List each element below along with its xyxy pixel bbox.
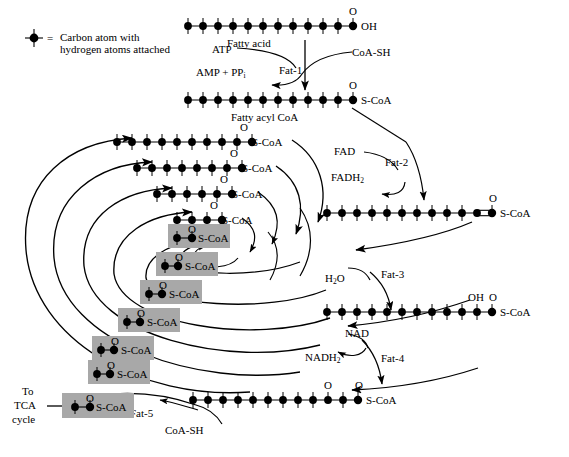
cofactor-fad: FAD — [334, 145, 355, 157]
hydroxyacyl-coa-terminal-scoa: S-CoA — [500, 306, 531, 318]
acetyl-coa-4-scoa: S-CoA — [147, 316, 178, 328]
fatty-acid-terminal-oh: OH — [361, 20, 377, 32]
cofactor-atp: ATP — [212, 43, 232, 55]
acetyl-coa-5-scoa: S-CoA — [121, 344, 152, 356]
enzyme-fat-4: Fat-4 — [381, 352, 404, 364]
water-o: O — [337, 272, 345, 284]
acetyl-coa-3-scoa: S-CoA — [169, 288, 200, 300]
acetyl-coa-6-o: O — [107, 359, 115, 371]
water-h: H — [325, 272, 333, 284]
acetyl-coa-5-o: O — [111, 335, 119, 347]
acetyl-coa-2-o: O — [175, 251, 183, 263]
tca-output-line-1: To — [22, 385, 33, 397]
fatty-acyl-coa-terminal-scoa: S-CoA — [361, 94, 392, 106]
hydroxyacyl-coa-carbonyl-o: O — [489, 291, 497, 303]
amp-ppi-subscript: i — [243, 71, 245, 80]
nadh2-text: NADH — [305, 351, 337, 363]
acetyl-coa-3-o: O — [159, 279, 167, 291]
molecule-fatty-acid — [183, 14, 363, 38]
enzyme-fat-1: Fat-1 — [279, 64, 302, 76]
cofactor-nad: NAD — [345, 327, 369, 339]
legend-line-1: Carbon atom with — [60, 31, 139, 43]
outer-sweep-1 — [356, 222, 472, 250]
molecule-ketoacyl-coa — [188, 388, 378, 412]
hydroxyacyl-coa-hydroxyl: OH — [468, 291, 484, 303]
enoyl-coa-terminal-scoa: S-CoA — [500, 207, 531, 219]
enoyl-coa-carbonyl-o: O — [489, 192, 497, 204]
acetyl-coa-2-scoa: S-CoA — [185, 260, 216, 272]
acyl-coa-4c-carbonyl-o: O — [210, 199, 218, 211]
fat4-arrows — [338, 334, 382, 384]
cofactor-coash-bottom: CoA-SH — [165, 424, 204, 436]
nadh2-subscript: 2 — [337, 356, 341, 365]
fatty-acid-carbonyl-o: O — [349, 5, 357, 17]
molecule-enoyl-coa — [322, 201, 512, 225]
cofactor-amp-ppi: AMP + PPi — [196, 66, 245, 82]
molecule-hydroxyacyl-coa — [322, 300, 512, 324]
acetyl-coa-6-scoa: S-CoA — [117, 368, 148, 380]
spiral-arc-right-1 — [292, 140, 323, 222]
tca-output-line-2: TCA — [14, 399, 36, 411]
cofactor-fadh2: FADH2 — [331, 171, 364, 187]
acetyl-coa-4-o: O — [137, 307, 145, 319]
fadh2-text: FADH — [331, 171, 360, 183]
enzyme-fat-2: Fat-2 — [385, 156, 408, 168]
acetyl-coa-1-scoa: S-CoA — [198, 232, 229, 244]
legend-carbon-dot — [24, 28, 44, 48]
acyl-coa-10c-terminal-scoa: S-CoA — [252, 136, 283, 148]
ketoacyl-coa-carbonyl-o: O — [355, 379, 363, 391]
acyl-coa-8c-terminal-scoa: S-CoA — [242, 162, 273, 174]
acyl-coa-8c-carbonyl-o: O — [230, 147, 238, 159]
fadh2-subscript: 2 — [360, 176, 364, 185]
label-fatty-acid: Fatty acid — [227, 37, 271, 49]
cofactor-coash-top: CoA-SH — [352, 46, 391, 58]
amp-ppi-text: AMP + PP — [196, 66, 243, 78]
enzyme-fat-3: Fat-3 — [381, 268, 404, 280]
ketoacyl-coa-keto-o: O — [324, 379, 332, 391]
outer-sweep-3 — [352, 368, 478, 390]
beta-oxidation-diagram: = Carbon atom with hydrogen atoms attach… — [0, 0, 569, 457]
fatty-acyl-coa-carbonyl-o: O — [349, 79, 357, 91]
acyl-coa-6c-carbonyl-o: O — [220, 173, 228, 185]
cofactor-water: H2O — [325, 272, 345, 288]
acyl-coa-10c-carbonyl-o: O — [240, 121, 248, 133]
acetyl-coa-final-o: O — [86, 392, 94, 404]
spiral-right-column — [268, 208, 311, 280]
ketoacyl-coa-terminal-scoa: S-CoA — [366, 394, 397, 406]
molecule-acyl-coa-10c — [112, 130, 262, 154]
acyl-coa-6c-terminal-scoa: S-CoA — [232, 188, 263, 200]
molecule-fatty-acyl-coa — [183, 88, 363, 112]
legend-line-2: hydrogen atoms attached — [60, 43, 170, 55]
cofactor-nadh2: NADH2 — [305, 351, 341, 367]
tca-output-line-3: cycle — [12, 413, 35, 425]
spiral-arc-right-2 — [276, 166, 301, 234]
acetyl-coa-final-scoa: S-CoA — [96, 401, 127, 413]
acetyl-coa-1-o: O — [188, 223, 196, 235]
legend-equals: = — [47, 32, 53, 44]
